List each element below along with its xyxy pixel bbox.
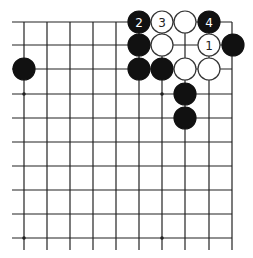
white-stone	[174, 11, 196, 33]
move-number-label: 2	[135, 16, 143, 30]
star-point	[22, 92, 26, 96]
black-stone	[222, 34, 244, 56]
move-number-label: 1	[205, 39, 213, 53]
black-stone: 4	[198, 11, 220, 33]
black-stone	[13, 58, 35, 80]
white-stone	[151, 34, 173, 56]
white-stone	[174, 58, 196, 80]
black-stone	[174, 83, 196, 105]
grid-lines	[12, 22, 232, 250]
go-board: 2341	[0, 0, 253, 258]
black-stone	[151, 58, 173, 80]
star-point	[160, 92, 164, 96]
white-stone	[198, 58, 220, 80]
star-point	[160, 236, 164, 240]
white-stone: 1	[198, 34, 220, 56]
black-stone: 2	[128, 11, 150, 33]
black-stone	[128, 34, 150, 56]
black-stone	[128, 58, 150, 80]
move-number-label: 3	[158, 16, 166, 30]
white-stone: 3	[151, 11, 173, 33]
black-stone	[174, 107, 196, 129]
star-point	[22, 236, 26, 240]
move-number-label: 4	[205, 16, 213, 30]
